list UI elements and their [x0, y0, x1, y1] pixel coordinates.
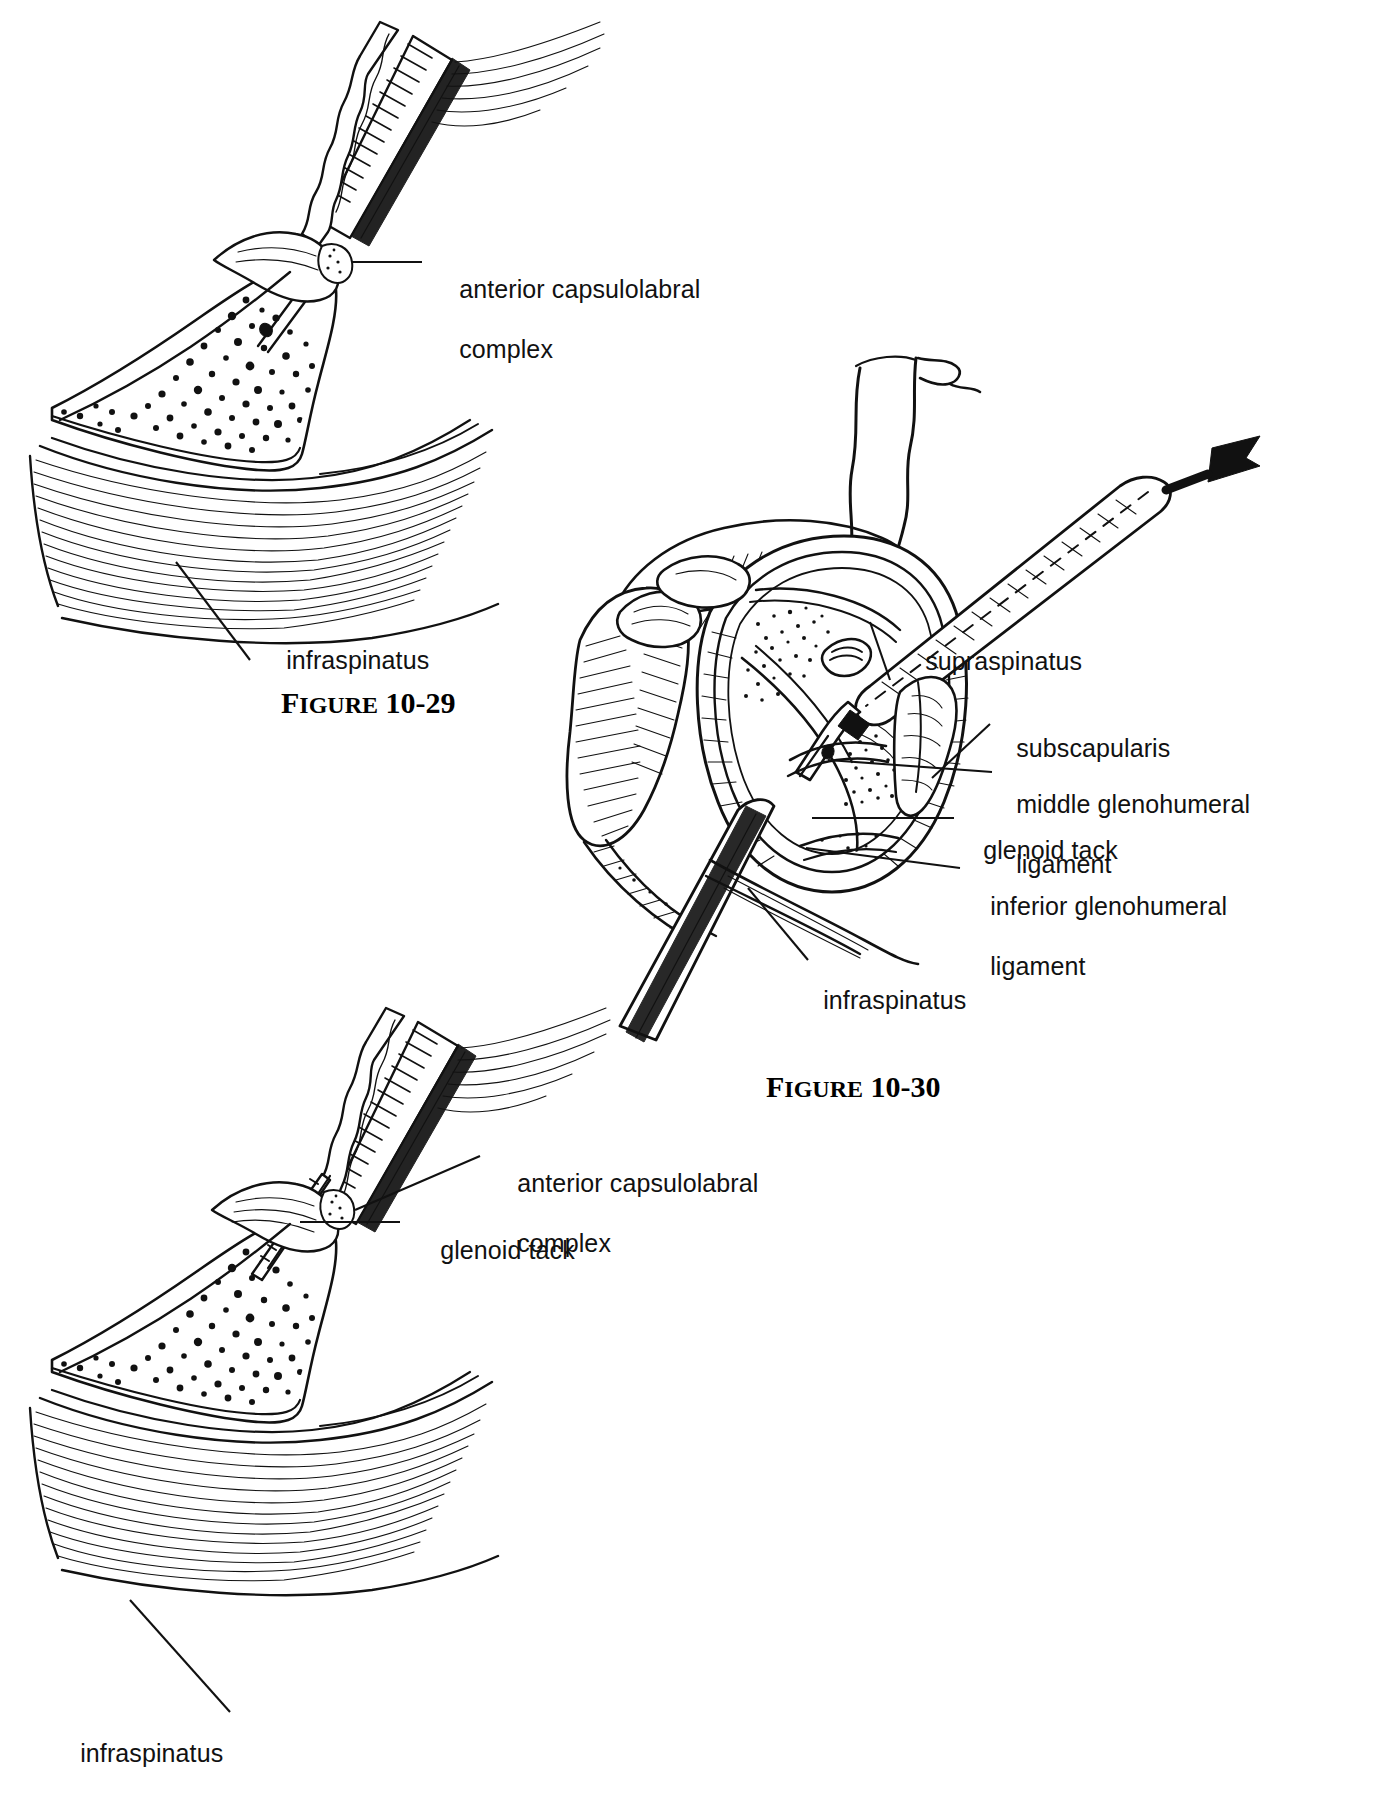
label-text: subscapularis	[1016, 734, 1170, 762]
label-text: infraspinatus	[823, 986, 966, 1014]
label-text: glenoid tack	[440, 1236, 575, 1264]
leader-infraspinatus-31	[130, 1600, 230, 1712]
caption-figure-10-30: FIGURE 10-30	[750, 1052, 941, 1122]
caption-figure-number: 10-29	[386, 686, 456, 719]
caption-number	[378, 686, 386, 719]
caption-figure-10-29: FIGURE 10-29	[265, 668, 456, 738]
caption-figure-word: IGURE	[784, 1076, 863, 1102]
caption-figure-initial: F	[766, 1070, 784, 1103]
figure-10-31-illustration	[0, 960, 720, 1794]
label-text: glenoid tack	[983, 836, 1118, 864]
label-text: supraspinatus	[925, 647, 1082, 675]
anterior-capsulolabral-complex	[214, 232, 352, 301]
caption-figure-number: 10-30	[871, 1070, 941, 1103]
label-text: infraspinatus	[80, 1739, 223, 1767]
fiber-strands	[432, 22, 604, 126]
label-glenoid-tack-fig31: glenoid tack	[412, 1205, 575, 1295]
label-infraspinatus-fig30: infraspinatus	[795, 955, 966, 1045]
figure-plate-page: anterior capsulolabral complex infraspin…	[0, 0, 1392, 1794]
fiber-strands	[438, 1008, 610, 1112]
leader-infraspinatus-30	[748, 888, 808, 960]
label-inferior-glenohumeral-ligament-fig30: inferior glenohumeral ligament	[962, 861, 1227, 1011]
label-supraspinatus-fig30: supraspinatus	[897, 616, 1082, 706]
label-line-1: inferior glenohumeral	[990, 892, 1227, 920]
direction-arrow	[1166, 436, 1260, 490]
label-line-1: anterior capsulolabral	[517, 1169, 758, 1197]
caption-figure-initial: F	[281, 686, 299, 719]
label-line-1: anterior capsulolabral	[459, 275, 700, 303]
anterior-capsulolabral-complex	[212, 1182, 354, 1251]
label-infraspinatus-fig31: infraspinatus	[52, 1708, 223, 1794]
caption-figure-word: IGURE	[299, 692, 378, 718]
label-line-2: ligament	[990, 952, 1085, 980]
label-line-2: complex	[459, 335, 553, 363]
